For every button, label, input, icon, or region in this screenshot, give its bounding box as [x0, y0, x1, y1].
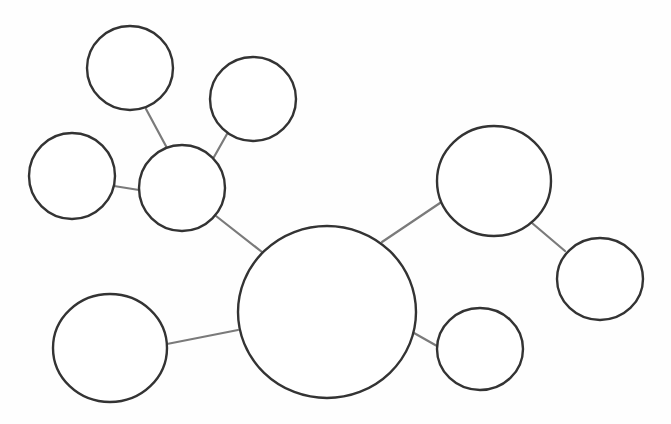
bubble-outline[interactable] — [29, 133, 115, 219]
bubble-outline[interactable] — [87, 26, 173, 110]
bubble-node-lower-right[interactable] — [437, 308, 523, 390]
bubble-outline[interactable] — [139, 145, 225, 231]
bubble-node-far-right[interactable] — [557, 238, 643, 320]
bubble-outline[interactable] — [557, 238, 643, 320]
bubble-outline[interactable] — [210, 57, 296, 141]
bubble-outline[interactable] — [53, 294, 167, 402]
cluster-diagram — [0, 0, 671, 424]
bubble-node-top-right-sm[interactable] — [210, 57, 296, 141]
bubble-node-top[interactable] — [87, 26, 173, 110]
bubble-node-hub-left[interactable] — [139, 145, 225, 231]
bubble-outline[interactable] — [437, 308, 523, 390]
bubble-node-lower-left[interactable] — [53, 294, 167, 402]
bubble-outline[interactable] — [437, 126, 551, 236]
bubble-node-right-large[interactable] — [437, 126, 551, 236]
bubble-node-center[interactable] — [238, 226, 416, 398]
bubble-outline[interactable] — [238, 226, 416, 398]
bubble-node-far-left[interactable] — [29, 133, 115, 219]
